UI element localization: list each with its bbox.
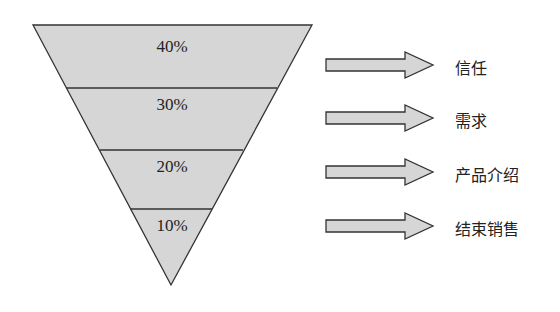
arrow-icon <box>326 213 433 239</box>
layer-percent-2: 30% <box>156 95 187 115</box>
stage-label-1: 信任 <box>455 55 487 79</box>
funnel-diagram <box>0 0 560 312</box>
layer-percent-3: 20% <box>156 157 187 177</box>
stage-label-2: 需求 <box>455 108 487 132</box>
stage-label-4: 结束销售 <box>455 216 519 240</box>
arrow-icon <box>326 159 433 185</box>
funnel-shape <box>33 25 312 285</box>
arrow-icon <box>326 105 433 131</box>
arrow-icon <box>326 52 433 78</box>
layer-percent-1: 40% <box>156 37 187 57</box>
layer-percent-4: 10% <box>156 216 187 236</box>
stage-label-3: 产品介绍 <box>455 162 519 186</box>
